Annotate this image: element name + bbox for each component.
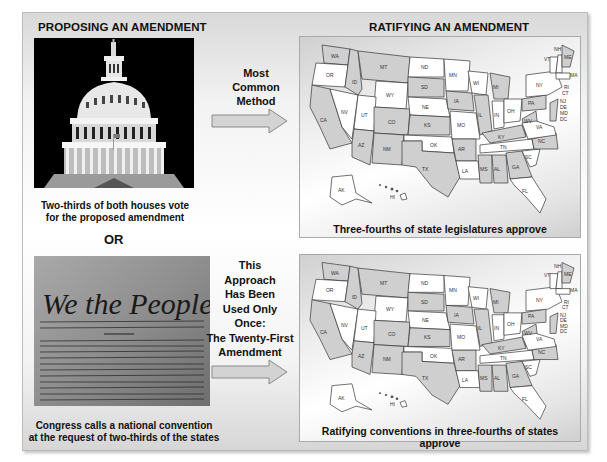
- svg-text:WV: WV: [524, 118, 533, 124]
- svg-text:NM: NM: [383, 358, 391, 363]
- us-map-icon: WAORCA IDNVMT WYUTAZ CONMND SDNEKS OKTXM…: [300, 37, 580, 217]
- right-arrow-icon: [211, 108, 289, 134]
- svg-text:CO: CO: [388, 119, 396, 125]
- svg-text:MO: MO: [457, 335, 465, 340]
- svg-text:AL: AL: [494, 376, 500, 381]
- svg-text:UT: UT: [361, 112, 368, 118]
- method-2-caption-line1: Congress calls a national convention: [24, 420, 224, 432]
- svg-text:KS: KS: [424, 122, 431, 128]
- svg-text:OK: OK: [430, 142, 438, 148]
- svg-text:NC: NC: [538, 350, 546, 355]
- svg-text:SC: SC: [525, 365, 532, 370]
- svg-text:CA: CA: [320, 330, 328, 335]
- svg-text:AL: AL: [494, 166, 500, 172]
- svg-text:NY: NY: [536, 298, 544, 303]
- svg-text:MA: MA: [570, 288, 578, 293]
- svg-text:TX: TX: [422, 376, 429, 381]
- svg-text:MA: MA: [570, 72, 578, 78]
- label-line: Most: [216, 66, 296, 80]
- svg-text:FL: FL: [522, 397, 528, 402]
- svg-text:OK: OK: [430, 354, 438, 359]
- svg-text:TN: TN: [500, 356, 507, 361]
- svg-text:MI: MI: [493, 300, 499, 305]
- svg-text:HI: HI: [390, 194, 395, 200]
- capitol-dome-photo: [34, 38, 194, 188]
- svg-text:MT: MT: [380, 64, 387, 70]
- proposing-heading: PROPOSING AN AMENDMENT: [38, 21, 207, 33]
- svg-text:NE: NE: [422, 318, 430, 323]
- svg-text:NH: NH: [554, 46, 562, 52]
- svg-text:MN: MN: [449, 72, 457, 78]
- svg-text:SC: SC: [525, 154, 532, 160]
- svg-text:WA: WA: [331, 271, 340, 276]
- method-2-caption-line2: at the request of two-thirds of the stat…: [24, 432, 224, 444]
- svg-text:CA: CA: [320, 117, 328, 123]
- svg-text:WI: WI: [473, 296, 479, 301]
- svg-text:MD: MD: [560, 324, 568, 329]
- svg-text:ME: ME: [564, 272, 572, 277]
- svg-text:DC: DC: [560, 116, 568, 122]
- label-line: Approach: [200, 273, 300, 288]
- svg-text:GA: GA: [512, 164, 520, 170]
- method-2-caption: Congress calls a national convention at …: [24, 420, 224, 444]
- svg-text:OH: OH: [507, 322, 515, 327]
- svg-text:CO: CO: [388, 332, 396, 337]
- constitution-document-icon: We the People: [34, 256, 210, 406]
- ratifying-heading: RATIFYING AN AMENDMENT: [369, 21, 529, 33]
- svg-text:MN: MN: [449, 288, 457, 293]
- method-1-caption: Two-thirds of both houses vote for the p…: [30, 200, 200, 224]
- svg-text:NC: NC: [538, 138, 546, 144]
- svg-text:MI: MI: [493, 84, 499, 90]
- svg-text:SD: SD: [421, 84, 428, 90]
- svg-text:VT: VT: [544, 274, 550, 279]
- svg-text:NE: NE: [422, 104, 430, 110]
- legislatures-caption: Three-fourths of state legislatures appr…: [300, 223, 580, 235]
- svg-text:OH: OH: [507, 108, 515, 114]
- svg-text:IL: IL: [478, 112, 482, 118]
- label-line: Used Only: [200, 302, 300, 317]
- twenty-first-amendment-label: This Approach Has Been Used Only Once: T…: [200, 258, 300, 360]
- label-line: Has Been: [200, 287, 300, 302]
- we-the-people-text: We the People: [42, 287, 210, 320]
- label-line: The Twenty-First: [200, 331, 300, 346]
- svg-text:AK: AK: [338, 187, 345, 193]
- svg-text:VA: VA: [536, 337, 543, 342]
- svg-text:OR: OR: [326, 288, 334, 293]
- svg-text:VA: VA: [536, 124, 543, 130]
- svg-text:IN: IN: [494, 112, 499, 118]
- svg-text:MO: MO: [457, 122, 465, 128]
- svg-text:LA: LA: [462, 168, 469, 174]
- svg-text:AR: AR: [458, 146, 465, 152]
- method-1-caption-line1: Two-thirds of both houses vote: [30, 200, 200, 212]
- svg-text:CT: CT: [562, 90, 569, 96]
- svg-text:OR: OR: [326, 72, 334, 78]
- svg-text:HI: HI: [390, 402, 395, 407]
- svg-text:AR: AR: [458, 358, 465, 363]
- svg-text:UT: UT: [361, 326, 368, 331]
- svg-text:NY: NY: [536, 82, 544, 88]
- svg-text:ID: ID: [352, 295, 358, 300]
- svg-text:KY: KY: [498, 346, 505, 351]
- svg-text:KY: KY: [498, 134, 505, 140]
- svg-text:WI: WI: [473, 80, 479, 86]
- svg-text:IA: IA: [454, 313, 460, 318]
- label-line: Once:: [200, 316, 300, 331]
- svg-text:AZ: AZ: [358, 142, 364, 148]
- svg-text:ND: ND: [421, 281, 429, 286]
- svg-text:WY: WY: [386, 307, 395, 312]
- svg-text:NM: NM: [383, 146, 391, 152]
- conventions-caption: Ratifying conventions in three-fourths o…: [300, 425, 580, 449]
- svg-text:WY: WY: [386, 92, 395, 98]
- svg-text:WV: WV: [524, 331, 533, 336]
- svg-text:PA: PA: [528, 100, 535, 106]
- svg-text:IL: IL: [478, 326, 482, 331]
- method-1-caption-line2: for the proposed amendment: [30, 212, 200, 224]
- svg-text:FL: FL: [522, 188, 528, 194]
- legislatures-map-panel: WAORCA IDNVMT WYUTAZ CONMND SDNEKS OKTXM…: [299, 36, 581, 238]
- label-line: Amendment: [200, 345, 300, 360]
- us-map-icon: WAORCA IDNVMT WYUTAZ CONMND SDNEKS OKTXM…: [300, 255, 580, 423]
- svg-text:MS: MS: [480, 376, 487, 381]
- svg-text:ME: ME: [564, 54, 572, 60]
- svg-text:ND: ND: [421, 64, 429, 70]
- svg-text:IA: IA: [454, 98, 459, 104]
